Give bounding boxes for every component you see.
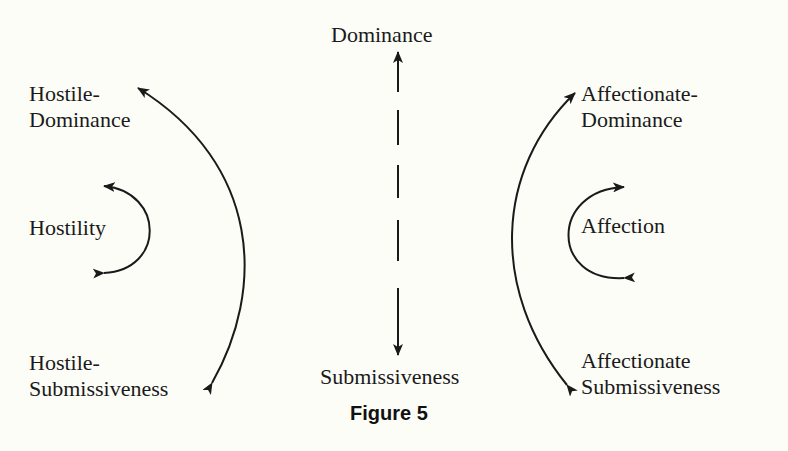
hostility-arc-arrow bbox=[104, 186, 150, 273]
affectionate-arc-arrow bbox=[512, 93, 575, 385]
label-hostile-submissiveness-line1: Hostile- bbox=[29, 350, 100, 375]
label-affectionate-submissiveness-line2: Submissiveness bbox=[581, 374, 720, 399]
label-dominance: Dominance bbox=[331, 22, 432, 47]
label-affectionate-submissiveness-line1: Affectionate bbox=[581, 348, 691, 373]
figure-caption: Figure 5 bbox=[350, 402, 428, 425]
label-submissiveness: Submissiveness bbox=[320, 364, 459, 389]
label-affectionate-dominance-line2: Dominance bbox=[581, 107, 682, 132]
label-hostile-dominance-line2: Dominance bbox=[29, 107, 130, 132]
label-affectionate-dominance-line1: Affectionate- bbox=[581, 81, 698, 106]
label-affection: Affection bbox=[581, 213, 665, 238]
hostile-arc-arrow bbox=[138, 88, 245, 383]
label-hostile-submissiveness-line2: Submissiveness bbox=[29, 376, 168, 401]
label-hostility: Hostility bbox=[29, 215, 106, 240]
label-hostile-dominance-line1: Hostile- bbox=[29, 81, 100, 106]
